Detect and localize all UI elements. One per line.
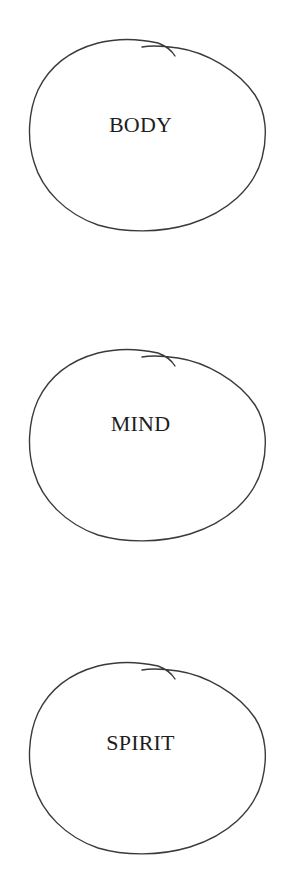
loop-label-mind: MIND [0, 413, 281, 435]
hand-drawn-loop-icon [0, 310, 281, 570]
loop-body: BODY [0, 0, 281, 260]
loop-label-body: BODY [0, 114, 281, 136]
loop-label-spirit: SPIRIT [0, 732, 281, 754]
loop-spirit: SPIRIT [0, 623, 281, 883]
loop-mind: MIND [0, 310, 281, 570]
